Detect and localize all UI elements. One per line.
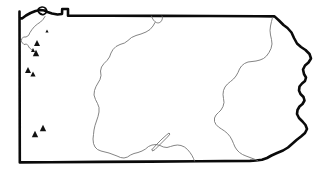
map-figure <box>0 0 330 176</box>
pennsylvania-outline-map <box>0 0 330 176</box>
